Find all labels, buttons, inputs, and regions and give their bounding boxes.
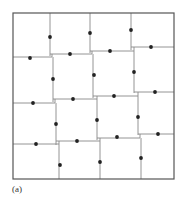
cell-edges <box>13 13 174 179</box>
figure-label: (a) <box>12 184 22 194</box>
edge-node-dot <box>139 156 143 160</box>
edge-node-dot <box>48 35 52 39</box>
edge-node-dot <box>34 142 38 146</box>
cell-partition-diagram <box>0 0 182 206</box>
edge-node-dot <box>58 163 62 167</box>
edge-node-dot <box>149 45 153 49</box>
edge-node-dot <box>75 139 79 143</box>
edge-node-dot <box>108 49 112 53</box>
edge-node-dot <box>98 160 102 164</box>
edge-node-dot <box>112 94 116 98</box>
edge-node-dot <box>129 28 133 32</box>
edge-nodes <box>28 28 160 167</box>
edge-node-dot <box>156 132 160 136</box>
edge-node-dot <box>115 135 119 139</box>
edge-node-dot <box>51 77 55 81</box>
edge-node-dot <box>132 70 136 74</box>
edge-node-dot <box>68 52 72 56</box>
edge-node-dot <box>95 118 99 122</box>
edge-node-dot <box>88 31 92 35</box>
edge-node-dot <box>71 97 75 101</box>
edge-node-dot <box>28 56 32 60</box>
edge-node-dot <box>92 73 96 77</box>
edge-node-dot <box>153 90 157 94</box>
edge-node-dot <box>31 101 35 105</box>
edge-node-dot <box>54 122 58 126</box>
edge-node-dot <box>136 115 140 119</box>
